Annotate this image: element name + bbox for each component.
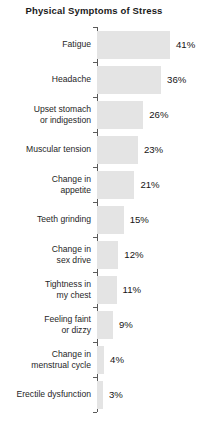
bar-value-label: 11% — [123, 272, 142, 307]
bar-value-label: 26% — [149, 97, 168, 132]
chart-row: Fatigue41% — [0, 27, 210, 62]
bar — [97, 311, 113, 339]
chart-title: Physical Symptoms of Stress — [0, 5, 210, 16]
chart-row: Change in menstrual cycle4% — [0, 342, 210, 377]
bar-slot: 9% — [97, 307, 210, 342]
chart-row: Erectile dysfunction3% — [0, 377, 210, 412]
axis-tick — [93, 97, 97, 98]
bar — [97, 381, 103, 409]
bar — [97, 171, 134, 199]
bar — [97, 241, 118, 269]
chart-row: Upset stomach or indigestion26% — [0, 97, 210, 132]
bar-value-label: 4% — [110, 342, 124, 377]
chart-row: Headache36% — [0, 62, 210, 97]
chart-row: Feeling faint or dizzy9% — [0, 307, 210, 342]
chart-row: Change in appetite21% — [0, 167, 210, 202]
axis-tick — [93, 27, 97, 28]
axis-tick — [93, 272, 97, 273]
category-label: Feeling faint or dizzy — [0, 307, 91, 342]
chart-row: Change in sex drive12% — [0, 237, 210, 272]
category-label: Tightness in my chest — [0, 272, 91, 307]
bar-slot: 4% — [97, 342, 210, 377]
axis-tick — [93, 342, 97, 343]
bar-slot: 26% — [97, 97, 210, 132]
bar — [97, 136, 138, 164]
bar-value-label: 41% — [176, 27, 195, 62]
plot-area: Fatigue41%Headache36%Upset stomach or in… — [0, 27, 210, 412]
bar-value-label: 9% — [119, 307, 133, 342]
bar — [97, 346, 104, 374]
category-label: Change in sex drive — [0, 237, 91, 272]
category-label: Headache — [0, 62, 91, 97]
axis-tick — [93, 377, 97, 378]
bar — [97, 66, 161, 94]
bar — [97, 276, 117, 304]
bar-value-label: 21% — [140, 167, 159, 202]
bar-slot: 41% — [97, 27, 210, 62]
category-label: Fatigue — [0, 27, 91, 62]
chart-row: Teeth grinding15% — [0, 202, 210, 237]
category-label: Erectile dysfunction — [0, 377, 91, 412]
axis-tick — [93, 62, 97, 63]
bar-value-label: 12% — [124, 237, 143, 272]
bar-chart: Physical Symptoms of Stress Fatigue41%He… — [0, 0, 210, 443]
axis-tick — [93, 307, 97, 308]
bar-value-label: 36% — [167, 62, 186, 97]
bar-slot: 15% — [97, 202, 210, 237]
category-label: Teeth grinding — [0, 202, 91, 237]
chart-row: Muscular tension23% — [0, 132, 210, 167]
axis-tick — [93, 237, 97, 238]
bar-slot: 3% — [97, 377, 210, 412]
bar-slot: 23% — [97, 132, 210, 167]
bar-slot: 21% — [97, 167, 210, 202]
bar — [97, 101, 143, 129]
bar — [97, 31, 170, 59]
axis-tick — [93, 132, 97, 133]
bar-slot: 36% — [97, 62, 210, 97]
bar-slot: 12% — [97, 237, 210, 272]
axis-tick — [93, 412, 97, 413]
bar-slot: 11% — [97, 272, 210, 307]
bar-value-label: 3% — [109, 377, 123, 412]
category-label: Change in menstrual cycle — [0, 342, 91, 377]
axis-tick — [93, 202, 97, 203]
category-label: Muscular tension — [0, 132, 91, 167]
bar-value-label: 23% — [144, 132, 163, 167]
axis-tick — [93, 167, 97, 168]
category-label: Upset stomach or indigestion — [0, 97, 91, 132]
bar — [97, 206, 124, 234]
chart-row: Tightness in my chest11% — [0, 272, 210, 307]
category-label: Change in appetite — [0, 167, 91, 202]
bar-value-label: 15% — [130, 202, 149, 237]
